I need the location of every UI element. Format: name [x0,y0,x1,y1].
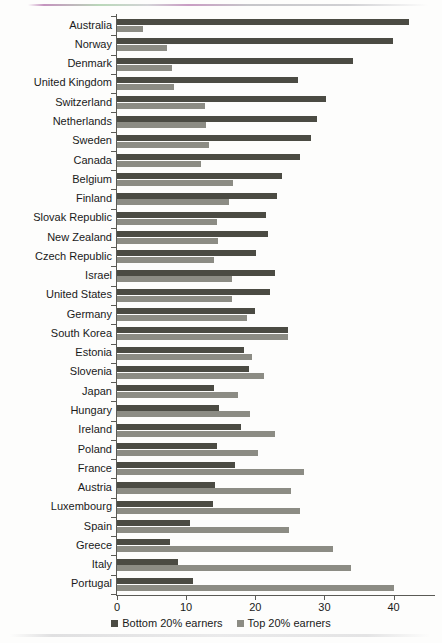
bar-bottom-20 [117,154,300,160]
value-tick-label: 40 [379,601,409,613]
category-label: Hungary [0,404,112,416]
plot-area [117,16,435,594]
category-tick [111,228,116,229]
legend-label: Top 20% earners [248,617,331,629]
category-label: Norway [0,38,112,50]
category-label: Poland [0,443,112,455]
category-tick [111,363,116,364]
bar-top-20 [117,45,167,51]
category-tick [111,401,116,402]
category-label: South Korea [0,327,112,339]
bar-group [117,324,435,343]
bar-bottom-20 [117,482,215,488]
category-tick [111,170,116,171]
category-tick [111,189,116,190]
bar-top-20 [117,296,232,302]
legend-entry[interactable]: Bottom 20% earners [111,617,222,629]
legend-entry[interactable]: Top 20% earners [237,617,331,629]
bar-top-20 [117,431,275,437]
category-tick [111,421,116,422]
bar-group [117,440,435,459]
category-tick [111,247,116,248]
bar-group [117,189,435,208]
bar-top-20 [117,103,205,109]
category-label: Canada [0,154,112,166]
bar-bottom-20 [117,462,235,468]
bar-bottom-20 [117,116,317,122]
category-tick [111,55,116,56]
bar-bottom-20 [117,443,217,449]
category-tick [111,266,116,267]
bar-bottom-20 [117,539,170,545]
category-tick [111,555,116,556]
category-tick [111,575,116,576]
bar-bottom-20 [117,520,190,526]
bar-top-20 [117,411,250,417]
scan-artifact-top [28,4,428,6]
bar-top-20 [117,199,229,205]
bar-group [117,151,435,170]
category-label: Italy [0,558,112,570]
category-label: Switzerland [0,96,112,108]
category-tick [111,594,116,595]
bar-bottom-20 [117,327,288,333]
value-tick [255,595,256,600]
bar-group [117,132,435,151]
bar-bottom-20 [117,212,266,218]
category-label: Estonia [0,346,112,358]
category-label: Portugal [0,577,112,589]
value-tick [186,595,187,600]
category-tick [111,459,116,460]
bar-top-20 [117,315,247,321]
bar-bottom-20 [117,366,249,372]
bar-top-20 [117,450,258,456]
value-tick [394,595,395,600]
legend-label: Bottom 20% earners [122,617,222,629]
bar-group [117,382,435,401]
bar-bottom-20 [117,193,277,199]
bar-group [117,74,435,93]
bar-bottom-20 [117,58,353,64]
category-tick [111,440,116,441]
bar-top-20 [117,334,288,340]
category-tick [111,151,116,152]
category-label: Czech Republic [0,250,112,262]
category-axis-labels: AustraliaNorwayDenmarkUnited KingdomSwit… [0,16,112,594]
bar-bottom-20 [117,385,214,391]
bar-group [117,401,435,420]
bar-top-20 [117,161,201,167]
bar-chart: AustraliaNorwayDenmarkUnited KingdomSwit… [0,0,442,643]
category-tick [111,517,116,518]
category-label: New Zealand [0,231,112,243]
bar-group [117,363,435,382]
value-tick-label: 20 [240,601,270,613]
bar-group [117,555,435,574]
category-tick [111,74,116,75]
bar-group [117,421,435,440]
bar-group [117,266,435,285]
bar-top-20 [117,392,238,398]
bar-top-20 [117,180,233,186]
bar-top-20 [117,257,214,263]
bar-top-20 [117,65,172,71]
scan-artifact-bottom [10,634,430,637]
bar-top-20 [117,142,209,148]
category-tick [111,93,116,94]
bar-top-20 [117,354,252,360]
bar-group [117,112,435,131]
bar-top-20 [117,546,333,552]
bar-group [117,517,435,536]
bar-group [117,459,435,478]
bar-group [117,286,435,305]
bar-bottom-20 [117,77,298,83]
category-tick [111,382,116,383]
bar-group [117,575,435,594]
category-label: Greece [0,539,112,551]
bar-top-20 [117,219,217,225]
bar-bottom-20 [117,501,213,507]
category-label: France [0,462,112,474]
category-label: Slovak Republic [0,211,112,223]
category-label: Finland [0,192,112,204]
value-tick-label: 30 [309,601,339,613]
bar-group [117,228,435,247]
